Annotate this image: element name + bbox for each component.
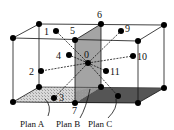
label-11: 11 — [110, 66, 120, 77]
node-1 — [53, 28, 59, 34]
node-5 — [72, 37, 78, 43]
plan-c-label: Plan C — [88, 119, 112, 129]
corner-node — [36, 21, 42, 27]
label-7: 7 — [72, 105, 77, 116]
node-0 — [85, 60, 91, 66]
label-5: 5 — [70, 25, 75, 36]
lattice-diagram: 1 5 6 9 4 0 10 2 11 3 7 Plan A Plan B Pl… — [0, 0, 174, 130]
label-10: 10 — [137, 51, 147, 62]
node-8 — [98, 84, 104, 90]
node-10 — [130, 53, 136, 59]
node-2 — [38, 68, 44, 74]
node-c — [115, 93, 121, 99]
label-3: 3 — [59, 92, 64, 103]
node-11 — [103, 68, 109, 74]
label-1: 1 — [44, 26, 49, 37]
node-6 — [98, 21, 104, 27]
corner-node — [10, 99, 16, 105]
node-9 — [118, 28, 124, 34]
node-3 — [51, 95, 57, 101]
corner-node — [161, 22, 167, 28]
node-4 — [66, 52, 72, 58]
label-6: 6 — [97, 9, 102, 20]
label-4: 4 — [56, 50, 61, 61]
corner-node — [135, 100, 141, 106]
corner-node — [135, 38, 141, 44]
plan-b-label: Plan B — [56, 119, 80, 129]
diagram-canvas: 1 5 6 9 4 0 10 2 11 3 7 Plan A Plan B Pl… — [0, 0, 174, 130]
corner-node — [161, 85, 167, 91]
corner-node — [36, 84, 42, 90]
label-2: 2 — [29, 66, 34, 77]
plan-a-label: Plan A — [20, 119, 45, 129]
corner-node — [10, 35, 16, 41]
label-9: 9 — [125, 23, 130, 34]
label-0: 0 — [84, 49, 89, 60]
